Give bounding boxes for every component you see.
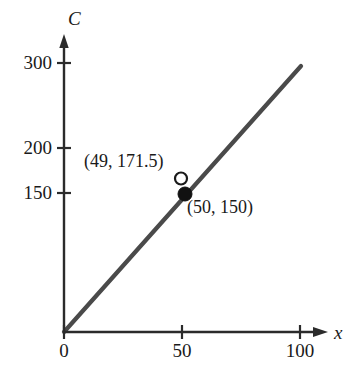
open-point-annotation: (49, 171.5) (84, 151, 164, 172)
chart-plot-area (0, 0, 351, 370)
y-axis-arrowhead (59, 34, 68, 48)
y-axis-label: C (68, 8, 81, 30)
x-axis-arrowhead (313, 327, 328, 337)
y-tick-label-300: 300 (6, 52, 52, 74)
open-circle-marker (175, 173, 187, 185)
x-tick-label-100: 100 (275, 340, 325, 362)
y-tick-label-150: 150 (6, 182, 52, 204)
x-tick-label-50: 50 (162, 340, 202, 362)
filled-point-annotation: (50, 150) (187, 197, 253, 218)
chart-figure: C x 300 200 150 0 50 100 (49, 171.5) (50… (0, 0, 351, 370)
y-tick-label-200: 200 (6, 137, 52, 159)
x-tick-label-0: 0 (44, 340, 84, 362)
x-axis-label: x (334, 322, 342, 344)
